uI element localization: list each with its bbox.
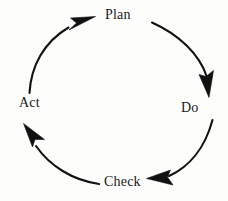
arrow-plan-to-do — [152, 23, 214, 98]
arrow-check-to-act — [24, 124, 100, 185]
cycle-node-check: Check — [102, 174, 143, 190]
arrowhead-act-to-plan — [69, 17, 96, 31]
arc-check-to-act — [36, 146, 99, 184]
cycle-node-act: Act — [17, 95, 42, 111]
arrowhead-do-to-check — [147, 170, 174, 185]
arc-do-to-check — [169, 120, 213, 176]
arc-act-to-plan — [30, 28, 69, 94]
arrow-act-to-plan — [30, 17, 96, 94]
arrowhead-check-to-act — [24, 124, 45, 148]
cycle-node-plan: Plan — [103, 7, 133, 23]
pdca-cycle-diagram: Plan Do Check Act — [0, 0, 228, 201]
arc-plan-to-do — [152, 23, 207, 77]
cycle-node-do: Do — [179, 100, 201, 116]
arrow-do-to-check — [147, 120, 213, 185]
